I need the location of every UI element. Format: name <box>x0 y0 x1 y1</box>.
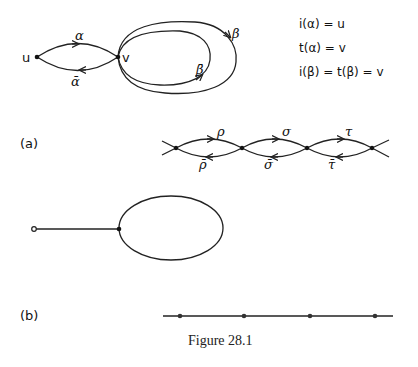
edge-rho <box>176 139 242 148</box>
equation-1: i(α) = u <box>299 17 345 31</box>
edge-tau <box>307 139 372 148</box>
edge-tau-bar <box>307 148 372 157</box>
edge-loop <box>119 196 223 260</box>
edge-rho-bar <box>176 148 242 157</box>
label-sigma-bar: σ̄ <box>264 157 274 172</box>
loop-node <box>117 227 122 232</box>
label-tau: τ <box>345 124 353 139</box>
edge-stub <box>372 148 389 157</box>
line-node <box>242 314 247 319</box>
edge-stub <box>372 140 389 148</box>
node-v-label: v <box>122 50 130 65</box>
label-beta: β <box>231 26 240 41</box>
graph-uv: u v α ᾱ β β̄ <box>22 22 240 94</box>
edge-stub <box>162 141 176 148</box>
edge-alpha-bar <box>37 57 118 71</box>
label-beta-bar: β̄ <box>195 62 204 77</box>
part-a-label: (a) <box>20 136 38 151</box>
line-node <box>308 314 313 319</box>
edge-sigma <box>242 139 307 148</box>
label-alpha-bar: ᾱ <box>71 74 80 89</box>
edge-sigma-bar <box>242 148 307 157</box>
lollipop-graph <box>32 196 223 260</box>
label-rho-bar: ρ̄ <box>198 157 207 172</box>
edge-beta-loop <box>118 22 236 94</box>
line-graph <box>163 314 393 319</box>
label-sigma: σ <box>282 124 292 139</box>
label-rho: ρ <box>216 124 225 139</box>
chain-node <box>370 146 374 150</box>
line-node <box>178 314 183 319</box>
chain-node <box>240 146 244 150</box>
node-u <box>35 55 40 60</box>
node-u-label: u <box>22 50 30 65</box>
figure-canvas: u v α ᾱ β β̄ i(α) = u t(α) = v i(β) = t(… <box>0 0 418 367</box>
equations: i(α) = u t(α) = v i(β) = t(β) = v <box>299 17 384 79</box>
part-b-label: (b) <box>20 308 38 323</box>
chain-graph: ρ σ τ ρ̄ σ̄ τ̄ <box>162 124 389 172</box>
figure-caption: Figure 28.1 <box>188 333 253 348</box>
figure-svg: u v α ᾱ β β̄ i(α) = u t(α) = v i(β) = t(… <box>0 0 418 367</box>
label-tau-bar: τ̄ <box>328 157 336 172</box>
open-node <box>32 227 37 232</box>
equation-3: i(β) = t(β) = v <box>299 65 384 79</box>
node-v <box>116 55 121 60</box>
edge-alpha <box>37 44 118 58</box>
label-alpha: α <box>75 28 84 43</box>
chain-node <box>305 146 309 150</box>
line-node <box>373 314 378 319</box>
equation-2: t(α) = v <box>299 41 346 55</box>
chain-node <box>174 146 178 150</box>
edge-stub <box>162 148 176 155</box>
